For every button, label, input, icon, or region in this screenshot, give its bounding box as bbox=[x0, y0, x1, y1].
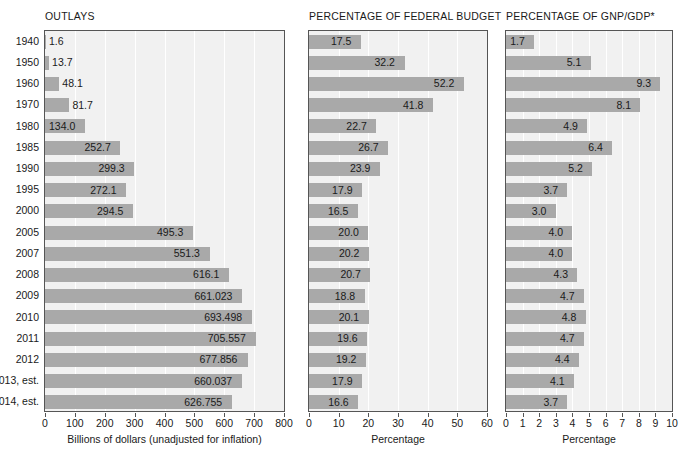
bar-value-label: 551.3 bbox=[174, 243, 200, 264]
bar-row: 661.023 bbox=[45, 286, 284, 307]
x-tick-label: 50 bbox=[451, 417, 463, 429]
bar-row: 616.1 bbox=[45, 264, 284, 285]
bar-value-label: 495.3 bbox=[157, 222, 183, 243]
x-tick-label: 700 bbox=[245, 417, 263, 429]
x-tick-label: 200 bbox=[96, 417, 114, 429]
bar-value-label: 4.0 bbox=[548, 243, 563, 264]
bar-row: 26.7 bbox=[309, 137, 487, 158]
panel-title: PERCENTAGE OF GNP/GDP* bbox=[506, 10, 655, 22]
bar bbox=[506, 395, 567, 409]
bar-row: 551.3 bbox=[45, 243, 284, 264]
x-axis-title: Billions of dollars (unadjusted for infl… bbox=[44, 433, 285, 445]
x-tick-label: 5 bbox=[586, 417, 592, 429]
x-tick-label: 10 bbox=[333, 417, 345, 429]
bar-row: 294.5 bbox=[45, 201, 284, 222]
bar-row: 299.3 bbox=[45, 158, 284, 179]
year-label: 2005 bbox=[16, 222, 39, 242]
x-tick-label: 500 bbox=[186, 417, 204, 429]
year-label: 2008 bbox=[16, 264, 39, 284]
bar-value-label: 23.9 bbox=[350, 158, 370, 179]
year-label: 1970 bbox=[16, 94, 39, 114]
bar-row: 5.2 bbox=[506, 158, 672, 179]
bar-row: 5.1 bbox=[506, 52, 672, 73]
year-label: 2000 bbox=[16, 200, 39, 220]
bar-row: 48.1 bbox=[45, 73, 284, 94]
bar-value-label: 13.7 bbox=[52, 52, 72, 73]
bar-value-label: 626.755 bbox=[184, 392, 222, 412]
year-label: 2009 bbox=[16, 285, 39, 305]
bar-row: 3.7 bbox=[506, 180, 672, 201]
bar-value-label: 3.0 bbox=[532, 201, 547, 222]
plot-area: 1.613.748.181.7134.0252.7299.3272.1294.5… bbox=[44, 30, 285, 412]
x-tick-label: 30 bbox=[392, 417, 404, 429]
bar-value-label: 8.1 bbox=[616, 95, 631, 116]
bar-value-label: 134.0 bbox=[49, 116, 75, 137]
bar-value-label: 26.7 bbox=[358, 137, 378, 158]
x-tick-label: 6 bbox=[603, 417, 609, 429]
bar-row: 17.9 bbox=[309, 180, 487, 201]
panel-title: PERCENTAGE OF FEDERAL BUDGET bbox=[309, 10, 501, 22]
bar bbox=[45, 35, 46, 49]
x-axis-title: Percentage bbox=[308, 433, 488, 445]
panel-title: OUTLAYS bbox=[45, 10, 95, 22]
bar-row: 4.7 bbox=[506, 328, 672, 349]
bar-row: 6.4 bbox=[506, 137, 672, 158]
year-label: 1950 bbox=[16, 52, 39, 72]
bar-value-label: 1.7 bbox=[510, 31, 525, 52]
three-panel-bar-chart-figure: 1940195019601970198019851990199520002005… bbox=[0, 0, 689, 467]
bar-row: 81.7 bbox=[45, 95, 284, 116]
x-tick-label: 9 bbox=[652, 417, 658, 429]
bar-value-label: 4.1 bbox=[550, 371, 565, 392]
bar-value-label: 4.8 bbox=[562, 307, 577, 328]
bar-value-label: 693.498 bbox=[204, 307, 242, 328]
bar-row: 32.2 bbox=[309, 52, 487, 73]
year-label: 1985 bbox=[16, 137, 39, 157]
bar-value-label: 19.2 bbox=[336, 349, 356, 370]
bar-row: 16.6 bbox=[309, 392, 487, 412]
x-tick-label: 400 bbox=[156, 417, 174, 429]
x-tick-label: 8 bbox=[636, 417, 642, 429]
bar-row: 134.0 bbox=[45, 116, 284, 137]
x-tick-label: 1 bbox=[520, 417, 526, 429]
x-tick-label: 20 bbox=[362, 417, 374, 429]
gridline bbox=[672, 31, 673, 411]
bar-value-label: 20.2 bbox=[339, 243, 359, 264]
bar-row: 693.498 bbox=[45, 307, 284, 328]
bar-value-label: 22.7 bbox=[346, 116, 366, 137]
x-tick-label: 10 bbox=[666, 417, 678, 429]
bar-row: 677.856 bbox=[45, 349, 284, 370]
bar-value-label: 1.6 bbox=[49, 31, 64, 52]
bar-row: 4.3 bbox=[506, 264, 672, 285]
bar bbox=[45, 77, 59, 91]
bar-value-label: 17.5 bbox=[331, 31, 351, 52]
bar-value-label: 294.5 bbox=[97, 201, 123, 222]
bar-value-label: 16.6 bbox=[328, 392, 348, 412]
x-tick-label: 0 bbox=[42, 417, 48, 429]
x-tick-label: 60 bbox=[481, 417, 493, 429]
plot-area: 17.532.252.241.822.726.723.917.916.520.0… bbox=[308, 30, 488, 412]
bar-row: 20.0 bbox=[309, 222, 487, 243]
year-label: 2010 bbox=[16, 307, 39, 327]
bar-row: 3.0 bbox=[506, 201, 672, 222]
bar-row: 41.8 bbox=[309, 95, 487, 116]
bar-row: 20.7 bbox=[309, 264, 487, 285]
bar-value-label: 4.0 bbox=[548, 222, 563, 243]
bar-value-label: 6.4 bbox=[588, 137, 603, 158]
bar-value-label: 3.7 bbox=[543, 392, 558, 412]
bar-row: 4.0 bbox=[506, 243, 672, 264]
bar-row: 705.557 bbox=[45, 328, 284, 349]
bar-value-label: 677.856 bbox=[200, 349, 238, 370]
bar-row: 13.7 bbox=[45, 52, 284, 73]
bar bbox=[45, 56, 49, 70]
bar-row: 495.3 bbox=[45, 222, 284, 243]
bar-row: 4.4 bbox=[506, 349, 672, 370]
bar-value-label: 4.3 bbox=[553, 264, 568, 285]
bar bbox=[506, 183, 567, 197]
bar-value-label: 19.6 bbox=[337, 328, 357, 349]
bar-row: 9.3 bbox=[506, 73, 672, 94]
year-label: 1940 bbox=[16, 31, 39, 51]
bar-value-label: 81.7 bbox=[72, 95, 92, 116]
bar-value-label: 4.7 bbox=[560, 328, 575, 349]
bar-row: 252.7 bbox=[45, 137, 284, 158]
bar-value-label: 5.2 bbox=[568, 158, 583, 179]
